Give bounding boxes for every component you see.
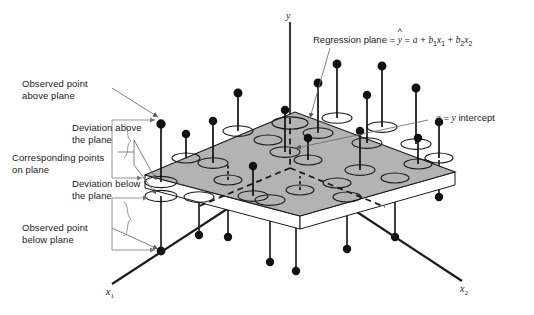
callout-deviation-above: Deviation above the plane (72, 122, 168, 146)
observed-point-below (225, 234, 232, 241)
leader-regression-plane (310, 48, 330, 118)
equation-prefix: Regression plane = (313, 34, 398, 45)
equation-plus-1: + (418, 34, 429, 45)
observed-point-above (183, 131, 190, 138)
observed-point-above (364, 92, 371, 99)
callout-deviation-below-line2: the plane (72, 190, 112, 201)
callout-observed-above-line2: above plane (22, 90, 75, 101)
equation-equals: = (402, 34, 413, 45)
y-hat-symbol: y^ (398, 34, 402, 45)
equation-plus-2: + (445, 34, 456, 45)
observed-point-above (378, 62, 385, 69)
callout-observed-above-line1: Observed point (22, 78, 88, 89)
callout-corresponding-points: Corresponding points on plane (12, 152, 122, 176)
callout-corresponding-line2: on plane (12, 164, 49, 175)
y-axis-label-text: y (286, 10, 290, 21)
observed-point-above (415, 135, 422, 142)
callout-y-intercept: a = y intercept (436, 112, 495, 123)
observed-point-above (333, 60, 340, 67)
observed-point-above (234, 89, 241, 96)
observed-point-above (305, 135, 312, 142)
callout-observed-point-below: Observed point below plane (22, 222, 122, 246)
x1-axis-label: x1 (106, 286, 114, 300)
callout-corresponding-line1: Corresponding points (12, 152, 104, 163)
callout-deviation-below: Deviation below the plane (72, 178, 168, 202)
observed-point-above (210, 118, 217, 125)
callout-observed-point-above: Observed point above plane (22, 78, 122, 102)
callout-deviation-above-line2: the plane (72, 134, 112, 145)
callout-observed-below-line2: below plane (22, 234, 74, 245)
observed-point-below (267, 259, 274, 266)
regression-plane-equation: Regression plane = y^ = a + b1x1 + b2x2 (313, 34, 472, 47)
intercept-rest: intercept (456, 112, 495, 123)
x2-axis-label: x2 (460, 283, 468, 297)
y-axis-label: y (286, 10, 290, 21)
observed-point-above (412, 84, 419, 91)
observed-point-above (357, 128, 364, 135)
callout-observed-below-line1: Observed point (22, 222, 88, 233)
equation-x2-sub: 2 (469, 40, 473, 47)
brace-below-curly (124, 202, 131, 236)
observed-point-above (250, 163, 257, 170)
callout-deviation-below-line1: Deviation below (72, 178, 141, 189)
observed-point-below (196, 232, 203, 239)
observed-point-below (436, 194, 443, 201)
observed-point-below (293, 268, 300, 275)
hat-accent-icon: ^ (398, 27, 402, 37)
observed-point-below (344, 246, 351, 253)
leader-corresponding-upper (134, 140, 156, 180)
callout-deviation-above-line1: Deviation above (72, 122, 142, 133)
regression-plane-slab (145, 112, 455, 229)
x2-axis-label-sub: 2 (464, 289, 468, 297)
x1-axis-label-sub: 1 (110, 292, 114, 300)
figure-canvas: Observed point above plane Deviation abo… (0, 0, 534, 315)
observed-point-above (282, 107, 289, 114)
intercept-equals: = (441, 112, 452, 123)
